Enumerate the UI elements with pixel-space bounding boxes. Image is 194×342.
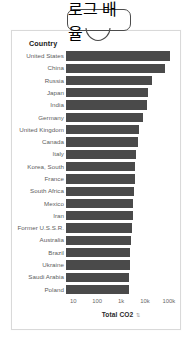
bar-row-label: Iran	[12, 213, 64, 219]
bar-track	[66, 161, 176, 173]
bar-row[interactable]: France	[12, 173, 182, 185]
bar-track	[66, 62, 176, 74]
bar-row[interactable]: United States	[12, 50, 182, 62]
bar-fill[interactable]	[66, 260, 130, 269]
bar-row[interactable]: Canada	[12, 136, 182, 148]
bar-row-label: Germany	[12, 115, 64, 121]
bar-fill[interactable]	[66, 76, 152, 85]
bar-row[interactable]: Poland	[12, 284, 182, 296]
bar-fill[interactable]	[66, 236, 131, 245]
bar-track	[66, 234, 176, 246]
bar-row[interactable]: Japan	[12, 87, 182, 99]
x-axis-tick-label: 1k	[118, 299, 124, 305]
bar-track	[66, 222, 176, 234]
bar-row-label: Italy	[12, 151, 64, 157]
x-axis-ticks: 101001k10k100k	[66, 299, 176, 309]
bar-fill[interactable]	[66, 100, 147, 109]
bar-row-label: Ukraine	[12, 262, 64, 268]
bar-row[interactable]: Former U.S.S.R.	[12, 222, 182, 234]
bar-row[interactable]: Korea, South	[12, 161, 182, 173]
bar-row-label: France	[12, 176, 64, 182]
bar-row-label: Former U.S.S.R.	[12, 225, 64, 231]
bar-row[interactable]: India	[12, 99, 182, 111]
bar-track	[66, 284, 176, 296]
bar-fill[interactable]	[66, 211, 133, 220]
bar-track	[66, 50, 176, 62]
bar-fill[interactable]	[66, 125, 139, 134]
bar-row[interactable]: Germany	[12, 111, 182, 123]
bar-fill[interactable]	[66, 273, 129, 282]
bar-track	[66, 124, 176, 136]
bar-row-label: China	[12, 65, 64, 71]
chart-card: Country United StatesChinaRussiaJapanInd…	[11, 30, 181, 330]
bar-fill[interactable]	[66, 88, 148, 97]
bar-row-label: Mexico	[12, 201, 64, 207]
bar-row-label: India	[12, 102, 64, 108]
bar-track	[66, 99, 176, 111]
bar-fill[interactable]	[66, 162, 135, 171]
x-axis-tick-label: 10k	[140, 299, 150, 305]
bar-fill[interactable]	[66, 150, 136, 159]
bar-row[interactable]: Brazil	[12, 247, 182, 259]
bar-fill[interactable]	[66, 248, 130, 257]
bar-track	[66, 271, 176, 283]
bar-row[interactable]: Ukraine	[12, 259, 182, 271]
x-axis-title: Total CO2	[102, 312, 134, 319]
bar-track	[66, 111, 176, 123]
bar-track	[66, 259, 176, 271]
bar-row[interactable]: Saudi Arabia	[12, 271, 182, 283]
bar-row[interactable]: South Africa	[12, 185, 182, 197]
bar-row-label: Russia	[12, 78, 64, 84]
bar-track	[66, 75, 176, 87]
column-header-country: Country	[29, 39, 57, 48]
bar-row-label: Poland	[12, 287, 64, 293]
bar-row-label: South Africa	[12, 188, 64, 194]
bar-fill[interactable]	[66, 187, 134, 196]
bar-track	[66, 87, 176, 99]
x-axis-title-group[interactable]: Total CO2 ⇅	[66, 312, 176, 319]
bar-row-label: Australia	[12, 237, 64, 243]
x-axis-tick-label: 100	[92, 299, 102, 305]
bar-row[interactable]: Russia	[12, 75, 182, 87]
bar-fill[interactable]	[66, 174, 135, 183]
bar-row-label: Canada	[12, 139, 64, 145]
bar-track	[66, 185, 176, 197]
bar-track	[66, 210, 176, 222]
bar-row[interactable]: United Kingdom	[12, 124, 182, 136]
bar-track	[66, 148, 176, 160]
bar-fill[interactable]	[66, 51, 170, 60]
x-axis-tick-label: 10	[70, 299, 77, 305]
bar-track	[66, 136, 176, 148]
bar-row[interactable]: Italy	[12, 148, 182, 160]
bar-row-label: United States	[12, 53, 64, 59]
bar-fill[interactable]	[66, 113, 143, 122]
sort-descending-icon[interactable]: ⇅	[136, 313, 140, 318]
bar-track	[66, 173, 176, 185]
bar-fill[interactable]	[66, 64, 165, 73]
bar-chart-plot-area: United StatesChinaRussiaJapanIndiaGerman…	[12, 50, 182, 296]
bar-row-label: Japan	[12, 90, 64, 96]
callout-tail-icon	[85, 28, 111, 42]
bar-row[interactable]: Australia	[12, 234, 182, 246]
bar-row-label: Korea, South	[12, 164, 64, 170]
bar-fill[interactable]	[66, 199, 133, 208]
bar-fill[interactable]	[66, 285, 129, 294]
bar-track	[66, 247, 176, 259]
bar-row[interactable]: Iran	[12, 210, 182, 222]
bar-row[interactable]: Mexico	[12, 198, 182, 210]
bar-row-label: United Kingdom	[12, 127, 64, 133]
bar-fill[interactable]	[66, 137, 138, 146]
bar-fill[interactable]	[66, 223, 132, 232]
bar-track	[66, 198, 176, 210]
bar-row-label: Saudi Arabia	[12, 274, 64, 280]
x-axis-tick-label: 100k	[162, 299, 175, 305]
bar-row-label: Brazil	[12, 250, 64, 256]
bar-row[interactable]: China	[12, 62, 182, 74]
